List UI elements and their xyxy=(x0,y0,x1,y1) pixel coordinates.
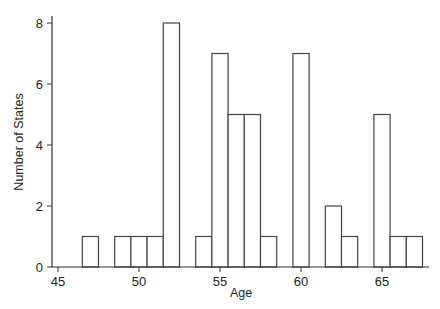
bars-group xyxy=(82,23,422,267)
bar-age-62 xyxy=(325,206,341,267)
x-tick-label: 65 xyxy=(375,274,389,289)
bar-age-49 xyxy=(115,237,131,268)
x-tick-label: 60 xyxy=(294,274,308,289)
bar-age-60 xyxy=(293,54,309,268)
y-tick-label: 2 xyxy=(36,199,43,214)
y-ticks-group: 02468 xyxy=(36,16,52,275)
bar-age-51 xyxy=(147,237,163,268)
bar-age-52 xyxy=(163,23,179,267)
y-tick-label: 8 xyxy=(36,16,43,31)
bar-age-56 xyxy=(228,115,244,268)
x-ticks-group: 4550556065 xyxy=(51,267,389,289)
x-axis-title: Age xyxy=(230,286,252,300)
x-tick-label: 50 xyxy=(132,274,146,289)
y-axis-title: Number of States xyxy=(12,93,26,190)
bar-age-55 xyxy=(212,54,228,268)
bar-age-67 xyxy=(406,237,422,268)
bar-age-63 xyxy=(342,237,358,268)
y-tick-label: 0 xyxy=(36,260,43,275)
bar-age-58 xyxy=(261,237,277,268)
histogram-chart: 02468 4550556065 Age Number of States xyxy=(0,0,440,309)
bar-age-57 xyxy=(244,115,260,268)
x-tick-label: 55 xyxy=(213,274,227,289)
bar-age-65 xyxy=(374,115,390,268)
bar-age-47 xyxy=(82,237,98,268)
bar-age-66 xyxy=(390,237,406,268)
y-tick-label: 6 xyxy=(36,77,43,92)
bar-age-54 xyxy=(196,237,212,268)
bar-age-50 xyxy=(131,237,147,268)
x-tick-label: 45 xyxy=(51,274,65,289)
y-tick-label: 4 xyxy=(36,138,43,153)
